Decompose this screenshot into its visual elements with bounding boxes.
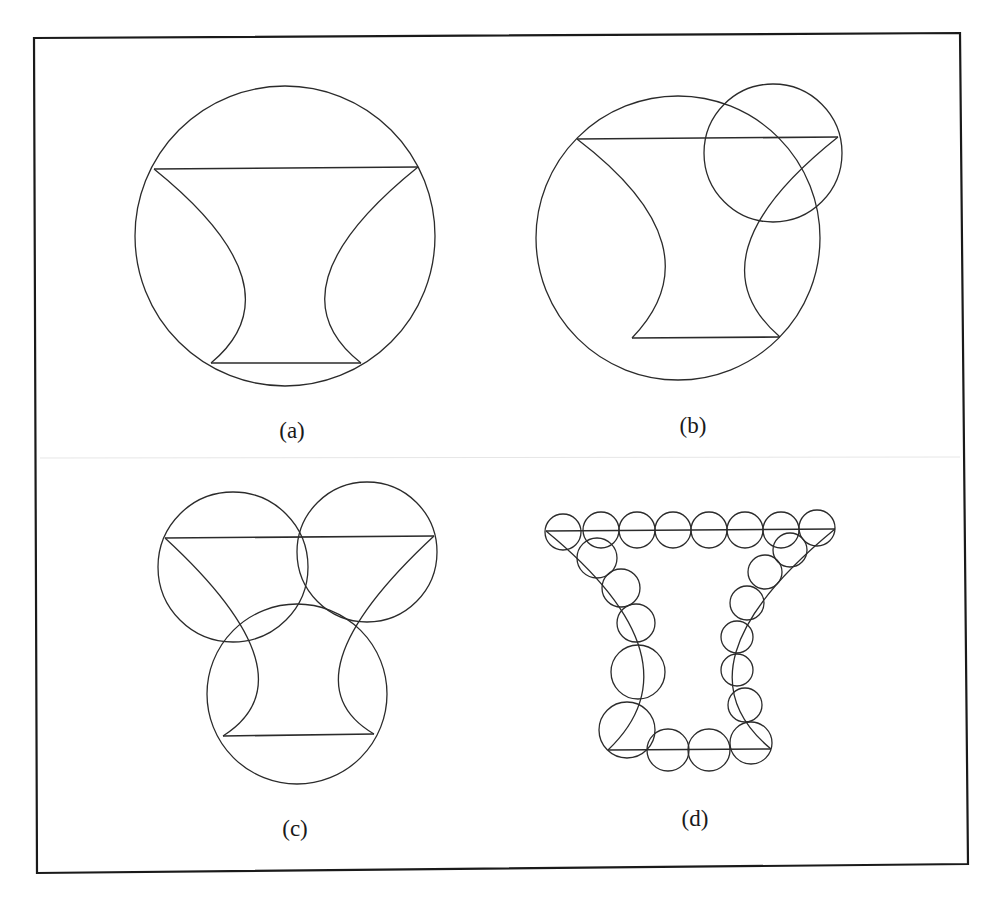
- panel-label-a: (a): [279, 418, 305, 443]
- panel-d: (d): [545, 510, 835, 831]
- left-concave-edge: [577, 139, 665, 338]
- bottom-edge: [632, 337, 780, 338]
- top-edge: [154, 167, 418, 169]
- covering-circles: [536, 84, 842, 380]
- top-edge: [546, 529, 835, 531]
- top-edge: [165, 536, 434, 538]
- right-concave-edge: [745, 137, 838, 337]
- covering-circle: [297, 482, 437, 622]
- covering-circles: [545, 510, 835, 771]
- covering-circle: [158, 492, 308, 642]
- top-edge: [577, 137, 838, 139]
- covering-circle: [611, 645, 665, 699]
- covering-circle: [730, 586, 764, 620]
- covering-circle: [135, 86, 435, 386]
- bottom-edge: [608, 749, 771, 750]
- figure-canvas: (a) (b) (c) (d): [0, 0, 995, 899]
- hourglass-shape: [577, 137, 838, 338]
- covering-circles: [135, 86, 435, 386]
- panel-a: (a): [135, 86, 435, 443]
- covering-circle: [721, 654, 753, 686]
- hourglass-shape: [154, 167, 418, 363]
- left-concave-edge: [154, 169, 245, 363]
- panel-label-d: (d): [682, 806, 709, 831]
- bleed-through-line: [40, 457, 960, 458]
- hourglass-shape: [546, 529, 835, 750]
- figure-frame: [34, 33, 968, 873]
- left-concave-edge: [165, 538, 258, 736]
- panel-c: (c): [158, 482, 437, 841]
- covering-circle: [617, 604, 655, 642]
- right-concave-edge: [732, 529, 835, 749]
- bottom-edge: [223, 734, 374, 736]
- covering-circle: [602, 569, 640, 607]
- covering-circle: [207, 604, 387, 784]
- right-concave-edge: [325, 167, 418, 363]
- hourglass-shape: [165, 536, 434, 736]
- panel-b: (b): [536, 84, 842, 438]
- covering-circles: [158, 482, 437, 784]
- panel-label-b: (b): [680, 413, 707, 438]
- panel-label-c: (c): [282, 816, 308, 841]
